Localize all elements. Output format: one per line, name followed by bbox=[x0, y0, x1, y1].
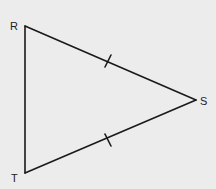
vertex-label-t: T bbox=[11, 172, 18, 184]
vertex-label-r: R bbox=[10, 20, 18, 32]
vertex-label-s: S bbox=[200, 95, 207, 107]
triangle-diagram: R S T bbox=[0, 0, 216, 189]
